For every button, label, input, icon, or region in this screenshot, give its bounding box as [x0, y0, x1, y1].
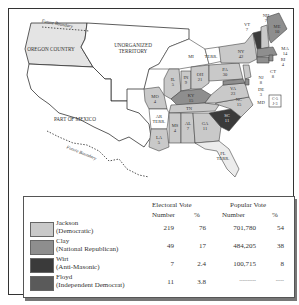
oregon-label: OREGON COUNTRY: [27, 46, 75, 52]
legend-row-wirt: Wirt(Anti-Masonic) 7 2.4 100,715 8: [30, 256, 290, 274]
pv-number: 100,715: [220, 260, 256, 268]
legend-row-clay: Clay(National Republican) 49 17 484,205 …: [30, 238, 290, 256]
unorganized-label-2: TERRITORY: [119, 48, 148, 54]
header-pv-percent: %: [272, 211, 278, 219]
mexico-label: PART OF MEXICO: [54, 116, 96, 122]
votes-ma: 14: [283, 51, 288, 56]
ev-percent: 76: [190, 224, 206, 232]
votes-ga: 11: [203, 126, 208, 131]
header-popular-vote: Popular Vote: [230, 201, 266, 209]
swatch-jackson: [30, 222, 54, 237]
votes-fl: TERR.: [217, 156, 230, 161]
votes-va: 23: [231, 91, 236, 96]
pv-percent: -----: [270, 278, 284, 283]
votes-pa: 30: [223, 72, 228, 77]
candidate-name: Wirt(Anti-Masonic): [56, 256, 100, 271]
legend-row-jackson: Jackson(Democratic) 219 76 701,780 54: [30, 220, 290, 238]
candidate-name: Clay(National Republican): [56, 238, 118, 253]
map-frame: Future Boundary OREGON COUNTRY UNORGANIZ…: [8, 8, 294, 295]
label-md: MD: [257, 100, 265, 105]
legend-row-floyd: Floyd(Independent Democrat) 11 3.8 -----…: [30, 274, 290, 292]
pv-number: ----------: [220, 278, 256, 283]
votes-ny: 42: [239, 54, 244, 59]
pv-percent: 54: [270, 224, 284, 232]
pv-number: 484,205: [220, 242, 256, 250]
state-ct: [257, 57, 269, 63]
ev-number: 219: [156, 224, 174, 232]
pv-number: 701,780: [220, 224, 256, 232]
future-boundary-south-label: Future Boundary: [65, 144, 98, 161]
state-nj: [243, 65, 251, 79]
pv-percent: 38: [270, 242, 284, 250]
votes-vt: 7: [246, 27, 249, 32]
election-map: Future Boundary OREGON COUNTRY UNORGANIZ…: [9, 9, 293, 189]
md-split-jackson: J-3: [273, 101, 278, 106]
label-mi: MI: [188, 54, 194, 59]
header-pv-number: Number: [222, 211, 245, 219]
state-tn: [169, 103, 219, 113]
state-ma: [257, 47, 277, 57]
votes-sc: 11: [225, 118, 230, 123]
swatch-wirt: [30, 258, 54, 273]
header-electoral-vote: Electoral Vote: [152, 201, 192, 209]
label-terr: TERR.: [205, 54, 218, 59]
votes-ri: 4: [282, 62, 285, 67]
ev-number: 49: [156, 242, 174, 250]
votes-oh: 21: [198, 77, 203, 82]
votes-nc: 15: [237, 102, 242, 107]
votes-nj: 8: [260, 80, 263, 85]
ev-number: 11: [156, 278, 174, 286]
votes-ar: TERR.: [153, 119, 166, 124]
ev-percent: 2.4: [190, 260, 206, 268]
votes-ky: 15: [189, 98, 194, 103]
state-ri: [269, 55, 273, 61]
ev-percent: 3.8: [190, 278, 206, 286]
votes-me: 10: [275, 29, 280, 34]
ev-percent: 17: [190, 242, 206, 250]
state-de: [245, 79, 249, 85]
results-legend: Electoral Vote Popular Vote Number % Num…: [23, 196, 295, 298]
header-ev-percent: %: [194, 211, 200, 219]
header-ev-number: Number: [152, 211, 175, 219]
candidate-name: Jackson(Democratic): [56, 220, 93, 235]
pv-percent: 8: [270, 260, 284, 268]
ev-number: 7: [156, 260, 174, 268]
votes-de: 3: [260, 92, 263, 97]
candidate-name: Floyd(Independent Democrat): [56, 274, 125, 289]
swatch-floyd: [30, 276, 54, 291]
swatch-clay: [30, 240, 54, 255]
votes-ct: 8: [272, 74, 275, 79]
label-tn: TN: [186, 106, 193, 111]
